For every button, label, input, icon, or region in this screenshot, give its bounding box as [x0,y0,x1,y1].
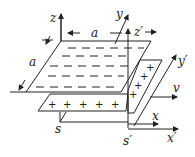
plus-sign: + [111,99,119,110]
s-frame-base [60,112,128,122]
a-top-label: a [91,26,98,40]
a-side-label: a [29,55,36,69]
v-label: v [173,81,180,95]
s-label: s [55,122,61,136]
x-prime-label: x′ [167,131,177,145]
y-label: y [115,7,123,21]
dimension-a-top: a [68,26,122,40]
z-prime-label: z′ [133,25,143,39]
plus-sign: + [95,99,103,110]
plus-sign: + [48,99,56,110]
s-prime-label: s′ [123,134,132,148]
plus-sign: + [79,99,87,110]
plus-sign: + [63,99,71,110]
z-label: z [49,11,57,25]
x-label: x [152,109,159,123]
capacitor-diagram: + + + + + z a a y + [0,0,195,157]
plus-sign: + [129,89,137,100]
bottom-positive-plate: + + + + + [38,94,128,111]
y-prime-label: y′ [177,54,188,68]
